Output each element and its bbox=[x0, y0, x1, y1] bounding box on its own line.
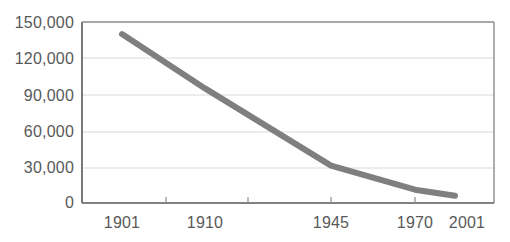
x-tick-label-1901: 1901 bbox=[82, 215, 162, 231]
x-tick-label-1910: 1910 bbox=[165, 215, 245, 231]
x-tick-label-2001: 2001 bbox=[427, 215, 507, 231]
chart-plot-svg bbox=[0, 0, 510, 242]
y-tick-label-60000: 60,000 bbox=[0, 124, 74, 140]
y-tick-label-90000: 90,000 bbox=[0, 88, 74, 104]
line-chart: 150,000 120,000 90,000 60,000 30,000 0 1… bbox=[0, 0, 510, 242]
y-tick-label-120000: 120,000 bbox=[0, 51, 74, 67]
y-tick-label-30000: 30,000 bbox=[0, 160, 74, 176]
y-tick-label-0: 0 bbox=[0, 195, 74, 211]
y-tick-label-150000: 150,000 bbox=[0, 15, 74, 31]
x-tick-label-1945: 1945 bbox=[291, 215, 371, 231]
